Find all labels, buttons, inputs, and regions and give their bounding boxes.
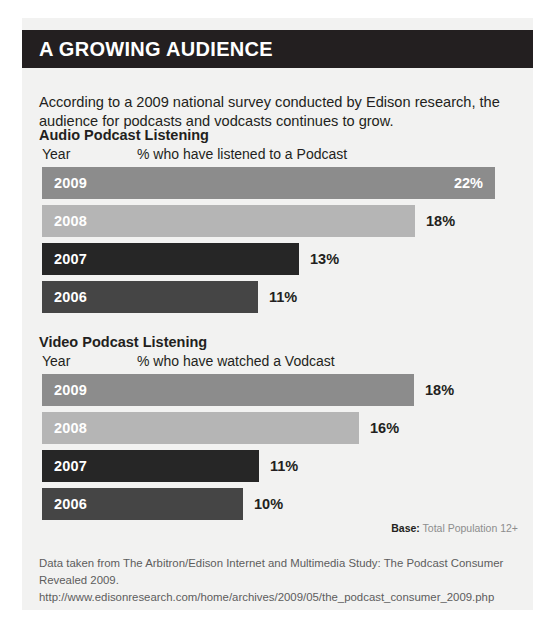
column-header-year-video: Year xyxy=(42,352,70,371)
bar-year-label: 2007 xyxy=(42,251,87,267)
bar-value-label: 11% xyxy=(270,458,298,474)
base-note-value: Total Population 12+ xyxy=(423,522,518,534)
bar-value-label: 10% xyxy=(254,496,283,512)
source-footnote: Data taken from The Arbitron/Edison Inte… xyxy=(39,555,517,606)
bar-group-audio: 200922%200818%200713%200611% xyxy=(39,167,518,313)
column-header-year-audio: Year xyxy=(42,145,70,164)
bar-value-label: 13% xyxy=(310,251,339,267)
bar-row: 200818% xyxy=(39,205,518,237)
infographic-card: A GROWING AUDIENCE According to a 2009 n… xyxy=(22,18,533,610)
base-note: Base: Total Population 12+ xyxy=(391,522,518,534)
section-audio-podcast-listening: Audio Podcast Listening Year % who have … xyxy=(39,128,518,313)
bar-row: 200611% xyxy=(39,281,518,313)
audio-bar-2007: 2007 xyxy=(42,243,299,275)
bar-row: 200713% xyxy=(39,243,518,275)
bar-value-label: 16% xyxy=(370,420,399,436)
bar-year-label: 2006 xyxy=(42,289,87,305)
section-title-audio: Audio Podcast Listening xyxy=(39,128,518,144)
bar-year-label: 2007 xyxy=(42,458,87,474)
infographic-page: A GROWING AUDIENCE According to a 2009 n… xyxy=(0,0,557,633)
bar-row: 200711% xyxy=(39,450,518,482)
section-title-video: Video Podcast Listening xyxy=(39,335,518,351)
bar-year-label: 2009 xyxy=(42,175,87,191)
audio-bar-2006: 2006 xyxy=(42,281,258,313)
base-note-label: Base: xyxy=(391,522,420,534)
bar-year-label: 2006 xyxy=(42,496,87,512)
bar-value-label: 11% xyxy=(269,289,297,305)
section-subhead-audio: Year % who have listened to a Podcast xyxy=(39,145,518,164)
bar-value-label: 18% xyxy=(426,213,455,229)
bar-row: 200918% xyxy=(39,374,518,406)
bar-year-label: 2008 xyxy=(42,213,87,229)
page-title: A GROWING AUDIENCE xyxy=(22,39,273,59)
video-bar-2009: 2009 xyxy=(42,374,414,406)
bar-value-label: 22% xyxy=(454,175,483,191)
bar-row: 200922% xyxy=(39,167,518,199)
bar-value-label: 18% xyxy=(425,382,454,398)
audio-bar-2008: 2008 xyxy=(42,205,415,237)
title-band: A GROWING AUDIENCE xyxy=(22,30,533,68)
bar-row: 200610% xyxy=(39,488,518,520)
bar-year-label: 2008 xyxy=(42,420,87,436)
bar-year-label: 2009 xyxy=(42,382,87,398)
column-header-metric-audio: % who have listened to a Podcast xyxy=(137,145,347,164)
section-subhead-video: Year % who have watched a Vodcast xyxy=(39,352,518,371)
audio-bar-2009: 200922% xyxy=(42,167,495,199)
video-bar-2006: 2006 xyxy=(42,488,243,520)
column-header-metric-video: % who have watched a Vodcast xyxy=(137,352,335,371)
video-bar-2007: 2007 xyxy=(42,450,259,482)
section-video-podcast-listening: Video Podcast Listening Year % who have … xyxy=(39,335,518,520)
intro-paragraph: According to a 2009 national survey cond… xyxy=(39,93,514,132)
bar-group-video: 200918%200816%200711%200610% xyxy=(39,374,518,520)
bar-row: 200816% xyxy=(39,412,518,444)
video-bar-2008: 2008 xyxy=(42,412,359,444)
